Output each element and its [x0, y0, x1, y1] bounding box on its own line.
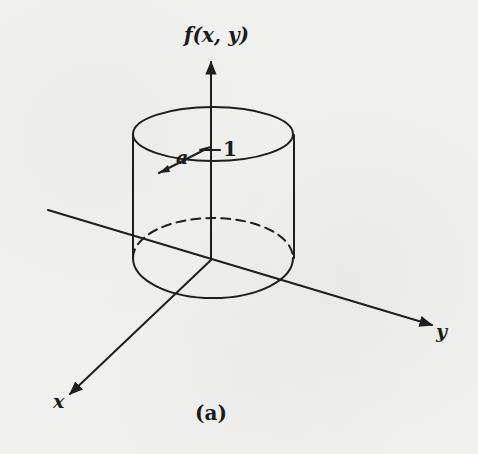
cylinder-bottom-back-edge: [133, 218, 293, 258]
cylinder-diagram: f(x, y) a 1 y x (a): [0, 0, 478, 454]
cylinder-bottom-front-edge: [133, 258, 293, 298]
f-axis-label: f(x, y): [182, 23, 249, 47]
cylinder-top-ellipse: [133, 107, 293, 161]
y-axis: [48, 210, 432, 325]
radius-label: a: [176, 146, 188, 168]
radius-arrowhead: [159, 165, 170, 173]
x-axis: [70, 260, 211, 394]
figure-caption: (a): [195, 401, 227, 425]
y-axis-label: y: [435, 320, 449, 342]
height-label: 1: [223, 137, 237, 161]
x-axis-label: x: [52, 390, 65, 412]
